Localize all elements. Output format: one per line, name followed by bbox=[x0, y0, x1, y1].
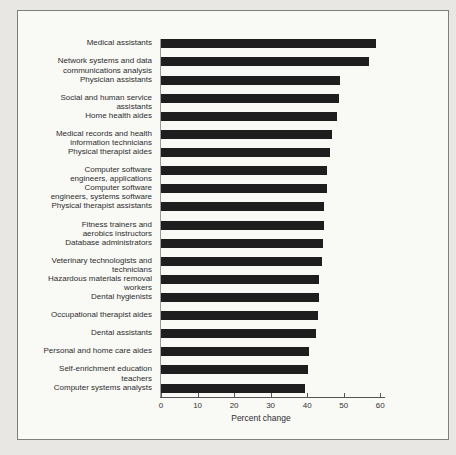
bar-chart: Percent change Medical assistantsNetwork… bbox=[0, 0, 456, 455]
category-label: Veterinary technologists andtechnicians bbox=[51, 256, 152, 274]
category-label: Fitness trainers andaerobics instructors bbox=[82, 220, 152, 238]
x-axis-title: Percent change bbox=[161, 413, 361, 423]
category-label: Personal and home care aides bbox=[43, 346, 152, 355]
category-label-line: Computer software bbox=[51, 183, 152, 192]
category-label-line: Physical therapist assistants bbox=[52, 201, 153, 210]
category-label-line: communications analysis bbox=[58, 66, 152, 75]
bar bbox=[161, 257, 322, 266]
x-axis-tick-label: 60 bbox=[368, 401, 392, 410]
category-label-line: Dental assistants bbox=[91, 328, 152, 337]
category-label-line: Hazardous materials removal bbox=[48, 274, 152, 283]
category-label-line: aerobics instructors bbox=[82, 229, 152, 238]
category-label-line: workers bbox=[48, 283, 152, 292]
category-label: Occupational therapist aides bbox=[51, 310, 152, 319]
category-label: Computer systems analysts bbox=[54, 383, 152, 392]
x-axis-tick-label: 20 bbox=[222, 401, 246, 410]
category-label: Dental hygienists bbox=[91, 292, 152, 301]
category-label-line: Dental hygienists bbox=[91, 292, 152, 301]
category-label-line: Home health aides bbox=[85, 111, 152, 120]
category-label: Computer softwareengineers, applications bbox=[70, 165, 152, 183]
x-axis-tick bbox=[380, 393, 381, 397]
x-axis-tick-label: 0 bbox=[149, 401, 173, 410]
x-axis-line bbox=[160, 397, 385, 398]
category-label-line: Veterinary technologists and bbox=[51, 256, 152, 265]
x-axis-tick-label: 50 bbox=[332, 401, 356, 410]
x-axis-tick bbox=[344, 393, 345, 397]
bar bbox=[161, 57, 369, 66]
category-label: Physician assistants bbox=[80, 75, 152, 84]
category-label: Database administrators bbox=[65, 238, 152, 247]
category-label-line: Database administrators bbox=[65, 238, 152, 247]
bar bbox=[161, 184, 327, 193]
category-label-line: Social and human service bbox=[60, 93, 152, 102]
x-axis-tick bbox=[271, 393, 272, 397]
figure: Percent change Medical assistantsNetwork… bbox=[0, 0, 456, 455]
category-label-line: technicians bbox=[51, 265, 152, 274]
bar bbox=[161, 166, 327, 175]
x-axis-tick-label: 30 bbox=[259, 401, 283, 410]
x-axis-tick bbox=[234, 393, 235, 397]
category-label-line: Occupational therapist aides bbox=[51, 310, 152, 319]
bar bbox=[161, 130, 332, 139]
category-label-line: Self-enrichment education bbox=[59, 364, 152, 373]
category-label-line: engineers, systems software bbox=[51, 192, 152, 201]
bar bbox=[161, 239, 323, 248]
bar bbox=[161, 76, 340, 85]
category-label-line: engineers, applications bbox=[70, 174, 152, 183]
x-axis-tick bbox=[307, 393, 308, 397]
x-axis-tick bbox=[161, 393, 162, 397]
bar bbox=[161, 275, 319, 284]
category-label-line: information technicians bbox=[56, 138, 152, 147]
bar bbox=[161, 202, 324, 211]
category-label: Social and human serviceassistants bbox=[60, 93, 152, 111]
x-axis-tick-label: 10 bbox=[186, 401, 210, 410]
category-label: Physical therapist assistants bbox=[52, 201, 153, 210]
category-label-line: Physical therapist aides bbox=[68, 147, 152, 156]
bar bbox=[161, 311, 318, 320]
x-axis-tick bbox=[198, 393, 199, 397]
category-label: Home health aides bbox=[85, 111, 152, 120]
category-label-line: Medical assistants bbox=[87, 38, 152, 47]
bar bbox=[161, 221, 324, 230]
category-label-line: assistants bbox=[60, 102, 152, 111]
category-label: Computer softwareengineers, systems soft… bbox=[51, 183, 152, 201]
category-label: Dental assistants bbox=[91, 328, 152, 337]
x-axis-tick-label: 40 bbox=[295, 401, 319, 410]
category-label-line: Network systems and data bbox=[58, 56, 152, 65]
bar bbox=[161, 384, 305, 393]
category-label: Physical therapist aides bbox=[68, 147, 152, 156]
category-label: Medical records and healthinformation te… bbox=[56, 129, 152, 147]
bar bbox=[161, 148, 330, 157]
bar bbox=[161, 347, 309, 356]
category-label-line: Fitness trainers and bbox=[82, 220, 152, 229]
category-label-line: Medical records and health bbox=[56, 129, 152, 138]
bar bbox=[161, 293, 319, 302]
category-label-line: teachers bbox=[59, 374, 152, 383]
category-label-line: Physician assistants bbox=[80, 75, 152, 84]
bar bbox=[161, 94, 339, 103]
category-label-line: Personal and home care aides bbox=[43, 346, 152, 355]
category-label: Network systems and datacommunications a… bbox=[58, 56, 152, 74]
bar bbox=[161, 329, 316, 338]
bar bbox=[161, 112, 337, 121]
category-label: Medical assistants bbox=[87, 38, 152, 47]
category-label: Self-enrichment educationteachers bbox=[59, 364, 152, 382]
category-label-line: Computer systems analysts bbox=[54, 383, 152, 392]
category-label-line: Computer software bbox=[70, 165, 152, 174]
bar bbox=[161, 365, 308, 374]
bar bbox=[161, 39, 376, 48]
category-label: Hazardous materials removalworkers bbox=[48, 274, 152, 292]
